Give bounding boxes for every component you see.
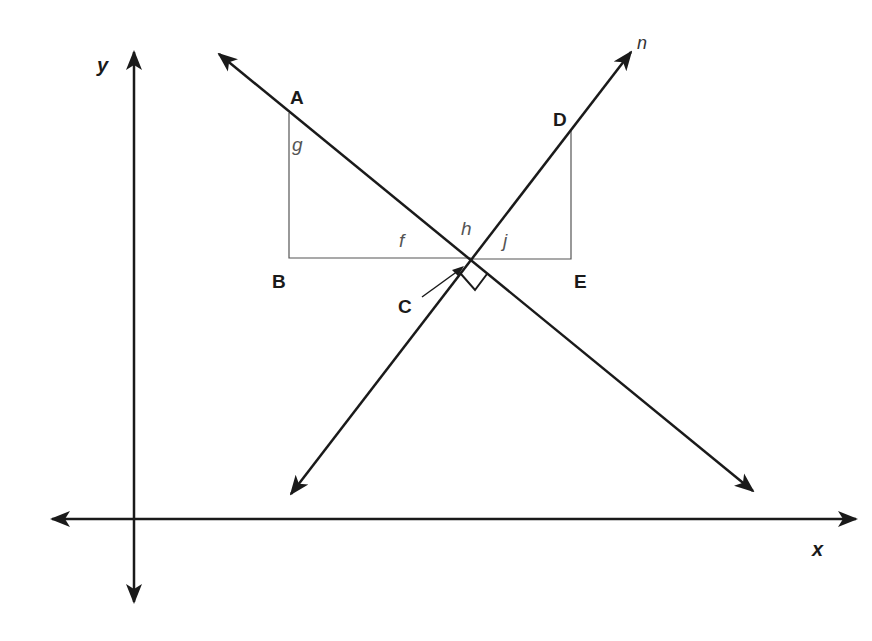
- point-c-label: C: [398, 296, 412, 317]
- geometry-diagram: y x n A B C D E g f h j: [0, 0, 872, 641]
- y-axis-label: y: [96, 54, 109, 76]
- angle-h-label: h: [461, 218, 472, 239]
- angle-j-label: j: [500, 230, 508, 251]
- transversal-line: [219, 54, 753, 491]
- point-d-label: D: [553, 109, 567, 130]
- angle-g-label: g: [292, 134, 303, 155]
- point-e-label: E: [574, 271, 587, 292]
- angle-f-label: f: [399, 230, 406, 251]
- point-a-label: A: [290, 87, 304, 108]
- point-b-label: B: [272, 271, 286, 292]
- x-axis-label: x: [811, 538, 824, 560]
- right-angle-marker: [461, 274, 487, 290]
- line-n-label: n: [637, 33, 647, 53]
